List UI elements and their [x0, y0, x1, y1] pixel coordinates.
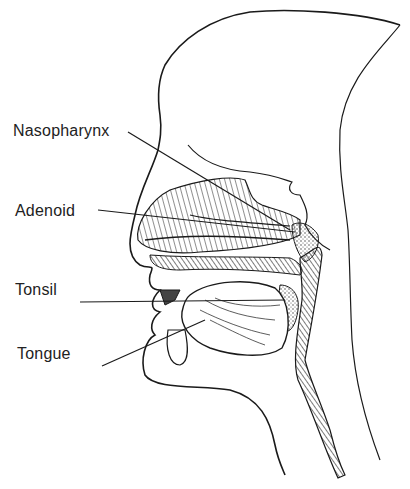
tongue-pointer: [102, 320, 205, 366]
label-nasopharynx: Nasopharynx: [13, 122, 109, 140]
label-adenoid: Adenoid: [15, 202, 75, 220]
tongue-body: [182, 282, 288, 355]
nasal-cavity: [138, 178, 300, 253]
head-cross-section-diagram: Nasopharynx Adenoid Tonsil Tongue: [0, 0, 410, 489]
label-tongue: Tongue: [17, 345, 71, 363]
hard-palate: [150, 255, 302, 275]
label-tonsil: Tonsil: [15, 281, 57, 299]
upper-teeth: [160, 290, 180, 305]
anatomy-illustration: [0, 0, 410, 489]
pharynx-wall: [295, 247, 345, 478]
neck-back-outline: [340, 25, 400, 460]
